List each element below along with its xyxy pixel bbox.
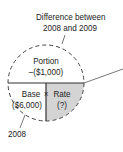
base-value: ($6,000): [11, 99, 43, 110]
base-label: Base: [20, 88, 42, 99]
multiply-operator: ×: [41, 88, 51, 99]
top-callout-line2: 2008 and 2009: [36, 22, 104, 33]
right-leader-line: [84, 69, 123, 83]
rate-label: Rate: [51, 88, 73, 99]
rate-value: (?): [54, 99, 71, 110]
top-leader-line: [62, 35, 65, 44]
portion-value: –($1,000): [24, 66, 68, 77]
portion-label: Portion: [29, 55, 63, 66]
bottom-callout: 2008: [6, 128, 28, 139]
top-callout-line1: Difference between: [36, 11, 104, 22]
bottom-leader-line: [20, 115, 25, 128]
